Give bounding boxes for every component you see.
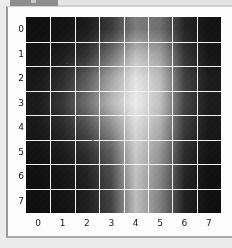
x-tick-label: 7 (202, 219, 216, 228)
y-tick-label: 7 (10, 196, 24, 205)
x-tick-label: 6 (177, 219, 191, 228)
y-tick-label: 0 (10, 25, 24, 34)
titlebar-notch (31, 0, 36, 3)
raster-speck (92, 140, 94, 141)
x-tick-label: 3 (104, 219, 118, 228)
heatmap-plot-area[interactable] (26, 17, 221, 213)
x-tick-label: 0 (31, 219, 45, 228)
raster-speck (66, 63, 68, 64)
x-axis-tick-labels: 01234567 (26, 219, 221, 233)
x-tick-label: 4 (129, 219, 143, 228)
y-tick-label: 2 (10, 74, 24, 83)
y-tick-label: 4 (10, 123, 24, 132)
x-tick-label: 2 (80, 219, 94, 228)
x-tick-label: 5 (153, 219, 167, 228)
y-axis-tick-labels: 01234567 (8, 17, 24, 213)
y-tick-label: 5 (10, 147, 24, 156)
x-tick-label: 1 (56, 219, 70, 228)
y-tick-label: 1 (10, 49, 24, 58)
y-tick-label: 3 (10, 98, 24, 107)
heatmap-image (26, 17, 221, 213)
y-tick-label: 6 (10, 172, 24, 181)
